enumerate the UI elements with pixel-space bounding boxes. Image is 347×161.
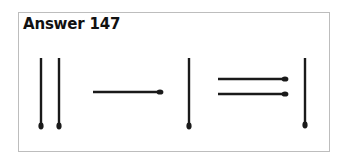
match-head-icon (38, 123, 43, 130)
matchstick-left-vertical-2[interactable] (56, 58, 61, 129)
matchstick-right-vertical[interactable] (302, 58, 307, 128)
matchstick-equals-bottom[interactable] (218, 91, 288, 96)
matchstick-minus-horizontal[interactable] (93, 89, 163, 94)
match-head-icon (157, 89, 164, 94)
match-head-icon (56, 123, 61, 130)
match-head-icon (282, 76, 289, 81)
matchstick-equation (0, 0, 347, 161)
match-head-icon (186, 123, 191, 130)
match-head-icon (282, 91, 289, 96)
matchstick-left-vertical-1[interactable] (38, 58, 43, 129)
matchstick-middle-vertical[interactable] (186, 58, 191, 129)
matchstick-equals-top[interactable] (218, 76, 288, 81)
match-head-icon (302, 122, 307, 129)
